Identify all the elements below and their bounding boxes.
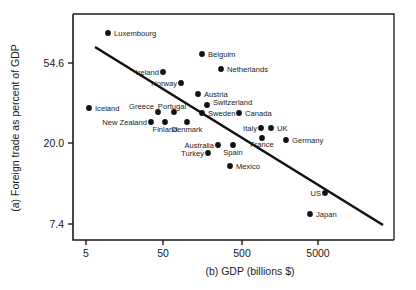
data-point-label: UK: [277, 124, 288, 133]
chart-container: LuxembourgBelguimNetherlandsIrelandNorwa…: [0, 0, 416, 290]
data-point-label: France: [250, 140, 274, 149]
scatter-plot: LuxembourgBelguimNetherlandsIrelandNorwa…: [0, 0, 416, 290]
data-point-label: Italy: [243, 124, 257, 133]
axis-lines: [73, 14, 394, 240]
y-tick-label: 20.0: [44, 137, 65, 149]
y-tick-label: 54.6: [44, 57, 65, 69]
x-tick-label: 5000: [306, 247, 330, 259]
data-point: [160, 69, 166, 75]
data-point-label: Turkey: [181, 149, 204, 158]
data-point-label: Denmark: [172, 125, 203, 134]
data-point: [268, 125, 274, 131]
data-point: [199, 51, 205, 57]
data-point-label: Portugal: [158, 102, 187, 111]
data-point-label: New Zealand: [102, 118, 147, 127]
data-point-label: Iceland: [95, 104, 120, 113]
y-tick-label: 7.4: [49, 218, 64, 230]
data-point: [195, 91, 201, 97]
x-tick-label: 50: [157, 247, 169, 259]
x-tick-label: 5: [83, 247, 89, 259]
data-point: [199, 110, 205, 116]
data-point: [258, 125, 264, 131]
data-point-label: Ireland: [136, 68, 159, 77]
data-point: [215, 142, 221, 148]
data-point: [322, 190, 328, 196]
plot-frame: [73, 14, 394, 240]
data-point: [178, 80, 184, 86]
data-point-label: Spain: [223, 148, 242, 157]
data-point-label: Switzerland: [213, 98, 252, 107]
frame-border: [73, 14, 394, 240]
data-point-label: Sweden: [208, 109, 235, 118]
x-axis-title: (b) GDP (billions $): [205, 265, 294, 277]
y-axis-title: (a) Foreign trade as percent of GDP: [9, 44, 21, 212]
data-point-label: Greece: [129, 102, 154, 111]
data-point: [218, 66, 224, 72]
data-point: [86, 105, 92, 111]
data-point-label: Luxembourg: [114, 29, 156, 38]
data-point-label: Norway: [151, 79, 177, 88]
data-point-label: Canada: [245, 109, 272, 118]
data-points: LuxembourgBelguimNetherlandsIrelandNorwa…: [86, 29, 337, 219]
data-point-label: Belguim: [208, 50, 235, 59]
x-tick-label: 500: [233, 247, 251, 259]
data-point: [205, 150, 211, 156]
data-point-label: Netherlands: [227, 65, 268, 74]
data-point-label: Japan: [316, 210, 337, 219]
data-point-label: US: [310, 189, 321, 198]
data-point: [307, 211, 313, 217]
data-point: [227, 163, 233, 169]
data-point: [236, 110, 242, 116]
data-point: [105, 30, 111, 36]
data-point-label: Mexico: [236, 162, 260, 171]
tick-labels: 55050050007.420.054.6: [44, 57, 330, 259]
data-point: [283, 137, 289, 143]
data-point-label: Germany: [292, 136, 323, 145]
data-point: [204, 102, 210, 108]
